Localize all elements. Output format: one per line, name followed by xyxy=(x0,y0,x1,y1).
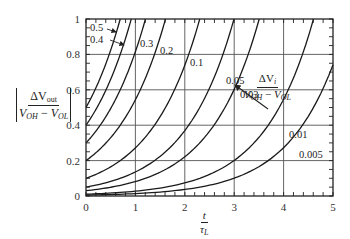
x-tick-label: 2 xyxy=(182,201,188,213)
curve-label-0.1: 0.1 xyxy=(190,57,203,68)
legend-voh: V xyxy=(244,88,251,100)
x-tick-label: 4 xyxy=(281,201,287,213)
y-tick-label: 1 xyxy=(75,13,81,25)
legend-delta-v: ΔV xyxy=(259,72,274,84)
curve-label-0.5: 0.5 xyxy=(90,22,103,33)
legend-title: ΔVi VOH − VOL xyxy=(244,73,291,102)
data-curves xyxy=(86,19,333,195)
y-label-vol: V xyxy=(51,106,58,120)
y-tick-label: 0.8 xyxy=(66,48,80,60)
y-axis-label: ΔVout VOH − VOL xyxy=(14,88,73,124)
curve-label-0.005: 0.005 xyxy=(299,149,323,160)
legend-sub-ol: OL xyxy=(281,93,291,102)
x-tick-label: 0 xyxy=(83,201,89,213)
y-tick-label: 0.2 xyxy=(66,155,80,167)
legend-minus: − xyxy=(262,88,274,100)
y-label-delta-v: ΔV xyxy=(30,89,46,103)
x-tick-label: 1 xyxy=(133,201,139,213)
x-tick-labels: 012345 xyxy=(83,201,336,213)
x-tick-label: 5 xyxy=(330,201,336,213)
x-axis-label: t τL xyxy=(200,210,208,237)
y-label-sub-ol: OL xyxy=(58,112,68,121)
legend-sub-i: i xyxy=(274,77,276,86)
arrow-0.5 xyxy=(107,29,116,32)
y-label-minus: − xyxy=(38,106,51,120)
y-tick-label: 0 xyxy=(75,190,81,202)
legend-sub-oh: OH xyxy=(251,93,263,102)
curve-label-0.05: 0.05 xyxy=(226,75,244,86)
curve-label-0.3: 0.3 xyxy=(140,38,153,49)
curve-label-0.2: 0.2 xyxy=(160,45,173,56)
x-label-sub-l: L xyxy=(204,228,208,237)
abs-bar-left xyxy=(16,88,17,122)
y-label-sub-out: out xyxy=(47,95,57,104)
legend-vol: V xyxy=(274,88,281,100)
x-label-t: t xyxy=(203,209,206,221)
y-label-sub-oh: OH xyxy=(26,112,38,121)
curve-label-0.01: 0.01 xyxy=(289,129,307,140)
curve-label-0.4: 0.4 xyxy=(90,34,104,45)
x-tick-label: 3 xyxy=(231,201,237,213)
abs-bar-right xyxy=(70,88,71,122)
